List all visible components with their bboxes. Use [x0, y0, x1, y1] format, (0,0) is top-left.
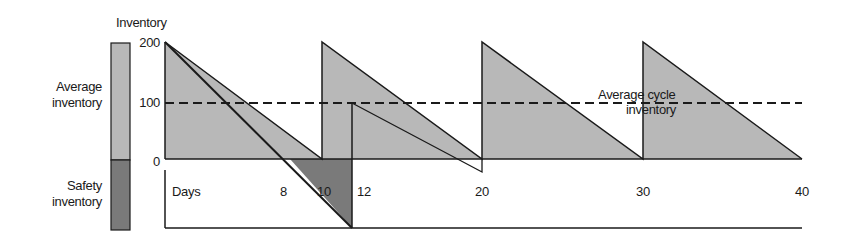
average-inventory-bar: [111, 43, 130, 160]
x-tick-12: 12: [357, 184, 371, 200]
x-axis-title: Days: [172, 184, 200, 200]
average-inventory-label-2: inventory: [20, 95, 102, 111]
x-tick-8: 8: [280, 184, 287, 200]
average-inventory-label-1: Average: [20, 79, 102, 95]
safety-inventory-bar: [111, 160, 130, 230]
inventory-chart: [0, 0, 848, 243]
y-tick-0: 0: [130, 154, 160, 170]
safety-inventory-label-2: inventory: [20, 194, 102, 210]
x-tick-10: 10: [317, 184, 331, 200]
y-tick-100: 100: [130, 95, 160, 111]
x-tick-40: 40: [795, 184, 809, 200]
x-tick-20: 20: [475, 184, 489, 200]
y-axis-title: Inventory: [116, 15, 167, 31]
safety-inventory-label-1: Safety: [20, 178, 102, 194]
avg-cycle-annotation-1: Average cycle: [598, 87, 676, 103]
avg-cycle-annotation-2: inventory: [626, 102, 676, 118]
x-tick-30: 30: [636, 184, 650, 200]
y-tick-200: 200: [130, 35, 160, 51]
